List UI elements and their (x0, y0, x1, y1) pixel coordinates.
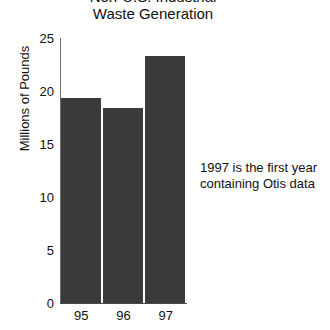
plot-area (60, 38, 186, 303)
bar-96 (103, 108, 143, 303)
x-tick-label-97: 97 (159, 308, 173, 323)
chart-title: Non-U.S. Industrial Waste Generation (48, 0, 258, 22)
bar-95 (61, 98, 101, 303)
y-tick-label: 15 (8, 138, 54, 151)
x-axis-tick-labels: 959697 (60, 308, 187, 328)
bar-97 (145, 56, 185, 303)
chart-annotation: 1997 is the first year containing Otis d… (200, 160, 330, 192)
x-axis-line (60, 303, 187, 304)
y-axis-tick-labels: 25 20 15 10 5 0 (0, 38, 54, 303)
bar-series (60, 38, 186, 303)
y-tick-label: 20 (8, 85, 54, 98)
chart-figure: Non-U.S. Industrial Waste Generation Mil… (0, 0, 330, 330)
x-tick-label-95: 95 (74, 308, 88, 323)
x-tick-label-96: 96 (116, 308, 130, 323)
y-tick-label: 5 (8, 244, 54, 257)
y-tick-label: 10 (8, 191, 54, 204)
y-tick-label: 0 (8, 297, 54, 310)
y-tick-label: 25 (8, 32, 54, 45)
